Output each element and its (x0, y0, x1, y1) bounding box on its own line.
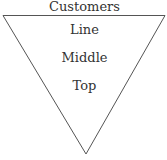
level-line-label: Line (1, 23, 167, 37)
level-top-label: Top (1, 79, 167, 93)
level-middle-label: Middle (1, 51, 167, 65)
customers-label: Customers (1, 0, 167, 14)
inverted-pyramid-diagram: Customers Line Middle Top (0, 0, 167, 160)
